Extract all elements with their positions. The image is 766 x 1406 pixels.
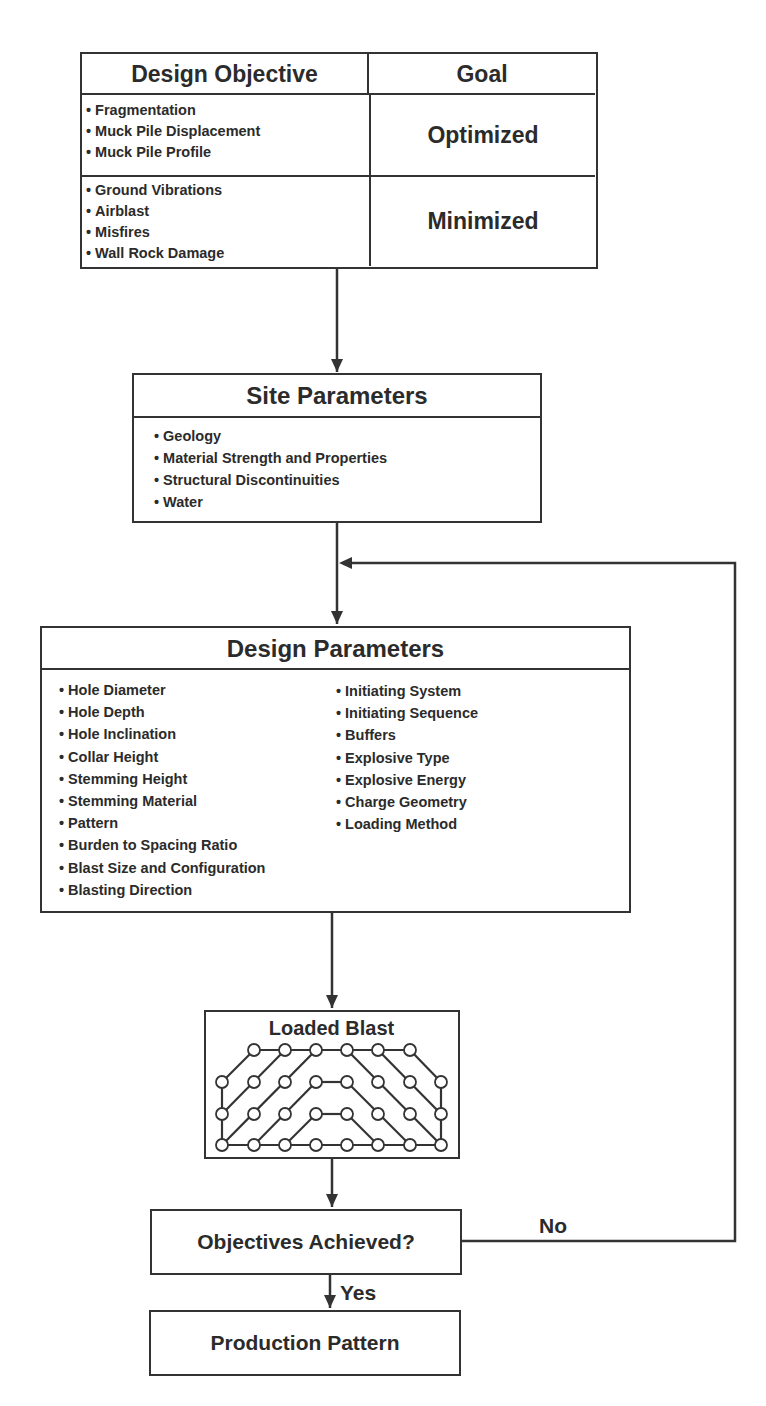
design-parameter-item: Hole Diameter	[59, 679, 265, 701]
design-parameter-item: Charge Geometry	[336, 791, 478, 813]
design-parameter-item: Buffers	[336, 724, 478, 746]
design-parameters-title: Design Parameters	[42, 628, 629, 670]
objective-list-optimize: Fragmentation Muck Pile Displacement Muc…	[86, 100, 260, 163]
design-objective-table: Design Objective Goal Fragmentation Muck…	[80, 52, 598, 269]
goal-optimized: Optimized	[369, 95, 595, 175]
site-parameter-item: Geology	[154, 425, 387, 447]
design-parameters-left-list: Hole Diameter Hole Depth Hole Inclinatio…	[59, 679, 265, 901]
production-pattern-box: Production Pattern	[149, 1310, 461, 1376]
feedback-arrowhead	[339, 557, 352, 569]
decision-label: Objectives Achieved?	[197, 1230, 414, 1253]
col-header-goal: Goal	[369, 54, 595, 95]
objective-row-2: Ground Vibrations Airblast Misfires Wall…	[82, 177, 595, 266]
design-parameter-item: Stemming Material	[59, 790, 265, 812]
design-parameter-item: Blast Size and Configuration	[59, 857, 265, 879]
objective-item: Fragmentation	[86, 100, 260, 121]
yes-label: Yes	[340, 1281, 376, 1305]
design-parameter-item: Loading Method	[336, 813, 478, 835]
site-parameter-item: Structural Discontinuities	[154, 469, 387, 491]
design-parameters-box: Design Parameters Hole Diameter Hole Dep…	[40, 626, 631, 913]
objective-item: Ground Vibrations	[86, 180, 224, 201]
design-parameter-item: Explosive Type	[336, 747, 478, 769]
site-parameter-item: Material Strength and Properties	[154, 447, 387, 469]
objective-item: Airblast	[86, 201, 224, 222]
design-parameter-item: Hole Depth	[59, 701, 265, 723]
objective-row-1: Fragmentation Muck Pile Displacement Muc…	[82, 95, 595, 177]
design-parameters-right-list: Initiating System Initiating Sequence Bu…	[336, 680, 478, 835]
objective-item: Misfires	[86, 222, 224, 243]
design-parameter-item: Explosive Energy	[336, 769, 478, 791]
design-parameter-item: Blasting Direction	[59, 879, 265, 901]
design-parameter-item: Pattern	[59, 812, 265, 834]
design-parameter-item: Initiating Sequence	[336, 702, 478, 724]
site-parameters-list: Geology Material Strength and Properties…	[154, 425, 387, 513]
design-parameter-item: Stemming Height	[59, 768, 265, 790]
site-parameter-item: Water	[154, 491, 387, 513]
design-parameter-item: Collar Height	[59, 746, 265, 768]
objective-item: Muck Pile Displacement	[86, 121, 260, 142]
site-parameters-title: Site Parameters	[134, 375, 540, 418]
decision-box: Objectives Achieved?	[150, 1209, 462, 1275]
loaded-blast-box: Loaded Blast	[204, 1010, 460, 1159]
objective-item: Wall Rock Damage	[86, 243, 224, 264]
production-pattern-label: Production Pattern	[210, 1331, 399, 1354]
col-header-design-objective: Design Objective	[82, 54, 369, 95]
goal-minimized: Minimized	[369, 177, 595, 266]
design-parameter-item: Burden to Spacing Ratio	[59, 834, 265, 856]
design-parameter-item: Hole Inclination	[59, 723, 265, 745]
site-parameters-box: Site Parameters Geology Material Strengt…	[132, 373, 542, 523]
no-label: No	[539, 1214, 567, 1238]
objective-item: Muck Pile Profile	[86, 142, 260, 163]
design-parameter-item: Initiating System	[336, 680, 478, 702]
blast-hole-pattern-icon	[206, 1012, 457, 1156]
objective-list-minimize: Ground Vibrations Airblast Misfires Wall…	[86, 180, 224, 264]
